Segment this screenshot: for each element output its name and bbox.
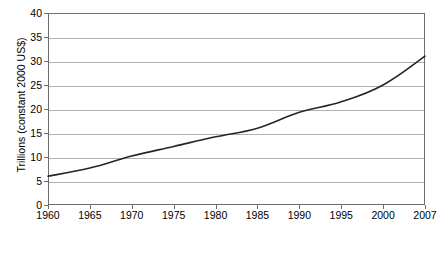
x-tick-label: 1995 [330,209,353,221]
x-tick-label: 1980 [204,209,227,221]
y-tick-label: 15 [12,128,42,138]
y-tick-mark [44,157,48,158]
x-tick-label: 1970 [120,209,143,221]
x-tick-label: 2000 [371,209,394,221]
line-chart: Trillions (constant 2000 US$) 0510152025… [0,0,440,253]
gridline [49,158,424,159]
gridline [49,110,424,111]
gridline [49,62,424,63]
gridline [49,86,424,87]
y-tick-mark [44,37,48,38]
gridline [49,38,424,39]
x-tick-label: 1960 [36,209,59,221]
y-tick-mark [44,181,48,182]
x-tick-label: 1975 [162,209,185,221]
y-tick-label: 30 [12,56,42,66]
y-tick-label: 10 [12,152,42,162]
y-tick-mark [44,61,48,62]
y-tick-label: 35 [12,32,42,42]
y-tick-mark [44,133,48,134]
plot-area [48,13,425,205]
y-tick-label: 5 [12,176,42,186]
gridline [49,182,424,183]
y-tick-mark [44,85,48,86]
x-tick-label: 2007 [413,209,436,221]
x-tick-label: 1990 [288,209,311,221]
y-tick-label: 25 [12,80,42,90]
x-tick-label: 1965 [78,209,101,221]
y-tick-mark [44,109,48,110]
y-tick-label: 20 [12,104,42,114]
x-tick-label: 1985 [246,209,269,221]
y-tick-label: 40 [12,8,42,18]
gridline [49,134,424,135]
y-tick-mark [44,13,48,14]
